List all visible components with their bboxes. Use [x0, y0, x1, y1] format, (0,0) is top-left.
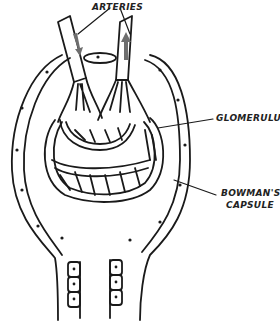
- bowmans-capsule: [12, 55, 190, 320]
- glomerulus-label: GLOMERULUS: [216, 113, 280, 123]
- renal-corpuscle-diagram: [0, 0, 280, 327]
- glomerulus: [45, 118, 163, 202]
- bowmans-capsule-label-line2: CAPSULE: [226, 200, 274, 210]
- center-cell: [84, 53, 116, 63]
- artery-right: [98, 16, 150, 122]
- tubule-cells: [68, 260, 122, 318]
- bowmans-pointer: [174, 180, 216, 195]
- arteries-label: ARTERIES: [92, 2, 143, 12]
- arrow-down-icon: [73, 33, 83, 56]
- glomerulus-pointer: [158, 119, 213, 128]
- bowmans-capsule-label-line1: BOWMAN'S: [221, 188, 280, 198]
